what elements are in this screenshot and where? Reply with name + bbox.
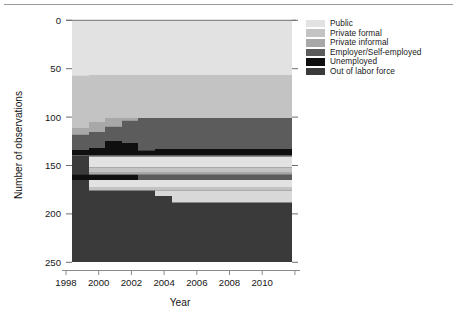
legend-item-out-of-labor-force: Out of labor force — [306, 67, 456, 76]
stripe-step-region — [155, 191, 292, 203]
x-tick-label-2006: 2006 — [186, 277, 207, 288]
stripe-pale-lower — [89, 180, 292, 187]
stripe-employer-lower — [72, 175, 138, 180]
legend-label-public: Public — [330, 19, 353, 28]
y-tick-label-250: 250 — [45, 257, 61, 268]
legend-swatch-public — [306, 20, 325, 28]
figure-container: 0 50 100 150 200 250 1998 2000 2002 2004… — [0, 0, 457, 318]
legend-swatch-employer-self-employed — [306, 49, 325, 57]
x-tick-label-2002: 2002 — [121, 277, 142, 288]
legend-item-private-informal: Private informal — [306, 38, 456, 47]
legend-item-employer-self-employed: Employer/Self-employed — [306, 48, 456, 57]
y-tick-label-200: 200 — [45, 208, 61, 219]
legend-item-public: Public — [306, 19, 456, 28]
x-tick-label-2008: 2008 — [219, 277, 240, 288]
legend-label-out-of-labor-force: Out of labor force — [330, 67, 395, 76]
x-ticks — [66, 271, 295, 276]
stripe-private-informal-lower — [89, 172, 292, 175]
x-tick-label-2000: 2000 — [88, 277, 109, 288]
area-layers — [72, 20, 292, 262]
legend-swatch-out-of-labor-force — [306, 68, 325, 76]
x-tick-label-2010: 2010 — [252, 277, 273, 288]
y-tick-label-50: 50 — [50, 63, 61, 74]
x-tick-label-1998: 1998 — [55, 277, 76, 288]
chart-legend: Public Private formal Private informal E… — [306, 19, 456, 76]
legend-swatch-unemployed — [306, 58, 325, 66]
y-tick-label-100: 100 — [45, 112, 61, 123]
legend-swatch-private-formal — [306, 29, 325, 37]
x-tick-label-2004: 2004 — [153, 277, 175, 288]
area-public — [72, 20, 292, 75]
legend-label-private-informal: Private informal — [330, 38, 388, 47]
stripe-employer-lower-right — [138, 175, 292, 180]
y-ticks-left — [66, 20, 72, 262]
stripe-public-lower — [89, 157, 292, 168]
y-tick-label-0: 0 — [56, 15, 61, 26]
y-ticks-right — [292, 20, 298, 262]
stripe-private-formal-lower — [89, 168, 292, 173]
y-axis-title: Number of observations — [13, 91, 24, 199]
legend-swatch-private-informal — [306, 39, 325, 47]
stripe-pale-lower-2 — [89, 187, 292, 191]
y-tick-label-150: 150 — [45, 160, 61, 171]
x-axis-title: Year — [170, 297, 191, 308]
